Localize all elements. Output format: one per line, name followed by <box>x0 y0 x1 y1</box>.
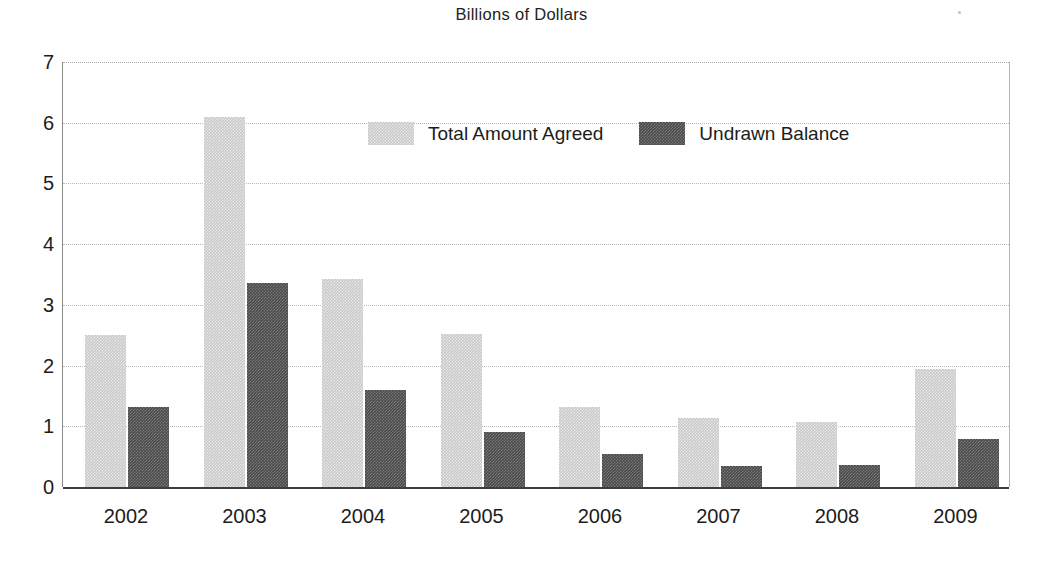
chart-title: Billions of Dollars <box>0 5 1043 24</box>
y-axis-tick-label: 5 <box>8 173 54 193</box>
legend-entry: Total Amount Agreed <box>368 122 603 145</box>
x-axis-tick-label: 2004 <box>341 505 386 528</box>
x-axis-tick-label: 2009 <box>933 505 978 528</box>
x-axis-tick-label: 2006 <box>578 505 623 528</box>
bar <box>678 418 719 487</box>
legend-label: Undrawn Balance <box>699 123 849 145</box>
bar <box>721 466 762 487</box>
x-axis-tick-label: 2007 <box>696 505 741 528</box>
x-axis-baseline <box>63 487 1009 489</box>
y-axis-tick-label: 7 <box>8 52 54 72</box>
y-axis-tick-label: 4 <box>8 234 54 254</box>
bar <box>915 369 956 487</box>
bar <box>128 407 169 487</box>
legend-swatch-dark <box>639 122 685 145</box>
chart-legend: Total Amount AgreedUndrawn Balance <box>368 122 849 145</box>
x-axis-tick-label: 2002 <box>104 505 149 528</box>
y-axis-tick-label: 3 <box>8 295 54 315</box>
x-axis-tick-label: 2003 <box>222 505 267 528</box>
legend-label: Total Amount Agreed <box>428 123 603 145</box>
legend-entry: Undrawn Balance <box>639 122 849 145</box>
bar <box>322 279 363 487</box>
bar <box>441 334 482 487</box>
bar <box>484 432 525 487</box>
bar <box>796 422 837 487</box>
bar <box>602 454 643 487</box>
y-axis-tick-label: 1 <box>8 416 54 436</box>
bar <box>958 439 999 487</box>
bar <box>559 407 600 487</box>
bar <box>204 117 245 487</box>
y-axis-tick-label: 0 <box>8 477 54 497</box>
bar <box>839 465 880 487</box>
x-axis-tick-label: 2005 <box>459 505 504 528</box>
x-axis-tick-label: 2008 <box>815 505 860 528</box>
bar <box>247 283 288 487</box>
gridline <box>63 62 1009 63</box>
bar <box>85 335 126 487</box>
y-axis: 01234567 <box>0 62 54 487</box>
x-axis: 20022003200420052006200720082009 <box>62 505 1010 545</box>
bar <box>365 390 406 487</box>
legend-swatch-light <box>368 122 414 145</box>
y-axis-tick-label: 2 <box>8 356 54 376</box>
scan-artifact-speck <box>958 11 961 14</box>
y-axis-tick-label: 6 <box>8 113 54 133</box>
